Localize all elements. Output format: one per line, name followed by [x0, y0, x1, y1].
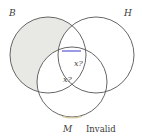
- validity-verdict-label: Invalid: [86, 125, 116, 134]
- venn-diagram-canvas: [0, 0, 143, 137]
- venn-diagram-figure: B H M Invalid x? x?: [0, 0, 143, 137]
- set-label-m: M: [63, 125, 72, 134]
- cell-marker-x-upper: x?: [74, 60, 83, 68]
- set-label-b: B: [9, 9, 16, 18]
- cell-marker-x-lower: x?: [63, 76, 72, 84]
- shaded-region-b-only: [0, 0, 143, 137]
- set-label-h: H: [124, 9, 132, 18]
